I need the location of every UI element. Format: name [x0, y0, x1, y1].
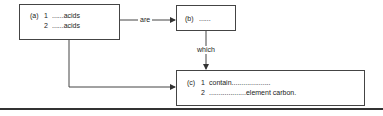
- box-b-tag: (b): [185, 14, 199, 24]
- box-a-line-2-num: 2: [44, 21, 52, 31]
- box-b-text: ......: [199, 15, 211, 22]
- box-b-line: (b)......: [185, 14, 211, 24]
- box-a-line-1-text: ......acids: [52, 12, 80, 19]
- box-c-line-1-num: 1: [201, 78, 209, 88]
- box-c-line-1-text: contain....................: [209, 79, 270, 86]
- box-b: (b)......: [176, 5, 236, 31]
- box-a-line-2: 2......acids: [30, 21, 80, 31]
- box-c-line-2-text: ...................element carbon.: [209, 89, 296, 96]
- box-a-tag: (a): [30, 11, 44, 21]
- box-a-line-2-text: ......acids: [52, 22, 80, 29]
- box-c-tag: (c): [187, 78, 201, 88]
- arrow-a-to-c: [69, 39, 175, 87]
- box-c-line-2: 2...................element carbon.: [187, 88, 296, 98]
- box-a-line-1: (a)1......acids: [30, 11, 80, 21]
- horizontal-rule: [0, 108, 383, 110]
- box-c-line-1: (c)1contain....................: [187, 78, 270, 88]
- box-c-line-2-num: 2: [201, 88, 209, 98]
- box-c: (c)1contain.................... 2.......…: [176, 70, 365, 106]
- box-a-line-1-num: 1: [44, 11, 52, 21]
- box-a: (a)1......acids 2......acids: [19, 4, 120, 40]
- connector-label-which: which: [195, 46, 217, 54]
- connector-label-are: are: [138, 16, 152, 24]
